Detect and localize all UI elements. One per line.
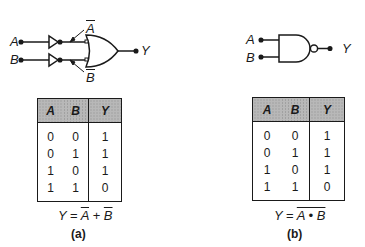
nand-gate <box>259 35 332 62</box>
input-label-a: A <box>246 33 255 46</box>
cell: 1 <box>89 162 122 179</box>
header-b: B <box>63 99 89 123</box>
output-label-y: Y <box>141 44 150 57</box>
truth-table-b: A B Y 0 0 1 0 1 1 1 0 1 1 1 0 <box>252 97 345 201</box>
formula-lhs: Y <box>274 208 282 223</box>
inverter-a <box>21 36 87 48</box>
cell: 0 <box>253 144 282 161</box>
formula-term-b-bar: B <box>104 208 113 223</box>
cell: 0 <box>38 123 64 146</box>
overline-b <box>86 69 95 70</box>
formula-b: Y = A • B <box>274 208 325 223</box>
table-row: 1 0 1 <box>253 161 345 178</box>
inverter-b <box>21 54 87 66</box>
table-row: 0 1 1 <box>38 145 122 162</box>
cell: 0 <box>281 122 310 145</box>
caption-b: (b) <box>287 227 302 241</box>
cell: 0 <box>38 145 64 162</box>
formula-op: + <box>93 208 101 223</box>
header-y: Y <box>89 99 122 123</box>
truth-table-a: A B Y 0 0 1 0 1 1 1 0 1 1 1 0 <box>37 98 122 202</box>
caption-a: (a) <box>71 227 86 241</box>
header-a: A <box>38 99 64 123</box>
formula-term-a-bar: A <box>81 208 89 223</box>
cell: 0 <box>310 178 345 201</box>
formula-eq: = <box>286 208 294 223</box>
table-row: 1 1 0 <box>38 179 122 202</box>
table-row: 0 0 1 <box>38 123 122 146</box>
cell: 1 <box>310 122 345 145</box>
table-row: 1 0 1 <box>38 162 122 179</box>
overline-a <box>86 20 95 21</box>
input-label-b: B <box>10 53 19 66</box>
cell: 1 <box>310 161 345 178</box>
formula-expr-nand: A • B <box>297 208 326 223</box>
cell: 1 <box>310 144 345 161</box>
header-y: Y <box>310 98 345 122</box>
cell: 0 <box>89 179 122 202</box>
cell: 1 <box>253 161 282 178</box>
table-row: 0 0 1 <box>253 122 345 145</box>
cell: 1 <box>89 145 122 162</box>
cell: 1 <box>281 178 310 201</box>
formula-a: Y = A + B <box>58 208 113 223</box>
cell: 1 <box>63 145 89 162</box>
formula-eq: = <box>70 208 78 223</box>
cell: 0 <box>63 123 89 146</box>
table-row: 1 1 0 <box>253 178 345 201</box>
header-b: B <box>281 98 310 122</box>
cell: 0 <box>253 122 282 145</box>
cell: 1 <box>281 144 310 161</box>
or-gate <box>85 35 138 67</box>
formula-lhs: Y <box>58 208 66 223</box>
input-label-b: B <box>246 51 255 64</box>
cell: 1 <box>253 178 282 201</box>
cell: 0 <box>281 161 310 178</box>
cell: 1 <box>38 179 64 202</box>
cell: 1 <box>63 179 89 202</box>
cell: 1 <box>89 123 122 146</box>
header-a: A <box>253 98 282 122</box>
cell: 1 <box>38 162 64 179</box>
arrow-a-bar <box>70 30 84 42</box>
table-row: 0 1 1 <box>253 144 345 161</box>
cell: 0 <box>63 162 89 179</box>
output-label-y: Y <box>342 42 351 55</box>
inverted-label-a-bar: A <box>86 22 95 35</box>
input-label-a: A <box>10 35 19 48</box>
inverted-label-b-bar: B <box>86 71 95 84</box>
arrow-b-bar <box>70 60 84 72</box>
